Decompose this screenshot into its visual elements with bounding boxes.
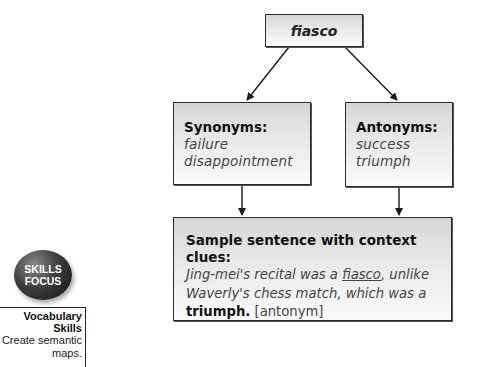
antonyms-heading: Antonyms: [356,119,452,136]
skill-description: maps. [0,347,82,360]
antonym-word-triumph: triumph. [186,304,250,319]
sample-sentence: Jing-mei's recital was a fiasco, unlike … [186,266,451,322]
antonym-item: success [356,136,452,153]
sample-heading: Sample sentence with context clues: [186,232,451,266]
antonyms-box: Antonyms: success triumph [345,102,453,187]
root-word-box: fiasco [265,14,363,47]
skill-title: Skills [0,322,82,334]
vocabulary-skills-box: Vocabulary Skills Create semantic maps. [0,307,86,367]
sentence-part: Jing-mei's recital was a [186,267,342,282]
arrow-root-to-synonyms [247,47,289,100]
sentence-part: Waverly's chess match, [186,286,346,301]
sentence-part: was a [384,286,426,301]
target-word-fiasco: fiasco [342,267,381,282]
context-clue-which: which [346,286,384,301]
badge-line: FOCUS [25,275,62,287]
antonym-item: triumph [356,153,452,170]
arrow-root-to-antonyms [345,47,397,100]
clue-type-label: [antonym] [250,304,323,319]
skill-description: Create semantic [0,334,82,347]
context-clue-unlike: unlike [389,267,429,282]
skills-focus-badge: SKILLS FOCUS [14,250,72,300]
root-word: fiasco [291,23,338,39]
badge-line: SKILLS [24,263,61,275]
synonyms-box: Synonyms: failure disappointment [173,102,311,185]
synonym-item: failure [184,136,310,153]
synonyms-heading: Synonyms: [184,119,310,136]
skill-title: Vocabulary [0,310,82,322]
sample-sentence-box: Sample sentence with context clues: Jing… [173,217,452,321]
synonym-item: disappointment [184,153,310,170]
